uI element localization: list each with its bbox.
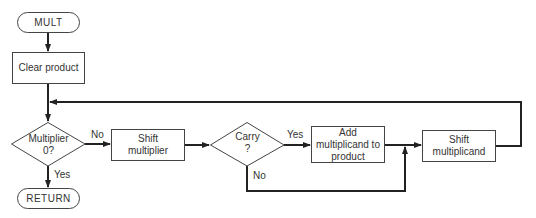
- carry-line2: ?: [245, 143, 251, 155]
- add-line1: Add: [339, 127, 357, 139]
- clear-product-label: Clear product: [18, 62, 78, 74]
- shift-multiplicand-box: Shift multiplicand: [422, 130, 496, 162]
- shift-multiplier-line1: Shift: [138, 133, 158, 145]
- add-line2: multiplicand to: [316, 139, 380, 151]
- carry-line1: Carry: [235, 131, 259, 143]
- carry-label: Carry ?: [210, 120, 285, 165]
- carry-no-label: No: [253, 170, 266, 181]
- add-line3: product: [331, 151, 364, 163]
- clear-product-box: Clear product: [12, 52, 85, 84]
- multiplier-zero-label: Multiplier 0?: [11, 122, 86, 167]
- shift-multiplicand-line2: multiplicand: [433, 146, 486, 158]
- flowchart-connectors: [0, 0, 536, 218]
- shift-multiplier-line2: multiplier: [128, 145, 168, 157]
- return-terminal: RETURN: [17, 188, 80, 209]
- start-terminal: MULT: [17, 12, 80, 33]
- shift-multiplicand-line1: Shift: [449, 134, 469, 146]
- add-multiplicand-box: Add multiplicand to product: [311, 126, 385, 163]
- multiplier-yes-label: Yes: [54, 169, 70, 180]
- return-label: RETURN: [26, 193, 71, 205]
- multiplier-zero-line1: Multiplier: [28, 133, 68, 145]
- shift-multiplier-box: Shift multiplier: [111, 129, 185, 161]
- start-label: MULT: [34, 17, 62, 29]
- multiplier-zero-line2: 0?: [43, 145, 54, 157]
- carry-yes-label: Yes: [287, 129, 303, 140]
- multiplier-no-label: No: [91, 129, 104, 140]
